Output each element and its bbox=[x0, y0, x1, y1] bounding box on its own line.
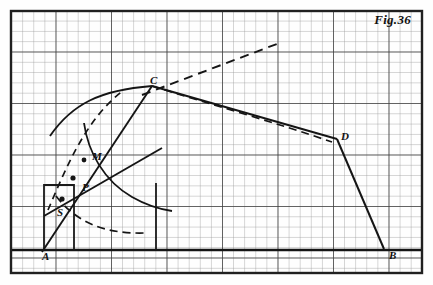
point-label-A: A bbox=[42, 250, 50, 262]
point-marker-P bbox=[70, 175, 75, 180]
diagram-canvas bbox=[0, 0, 433, 285]
graph-paper-grid bbox=[11, 11, 422, 273]
point-label-C: C bbox=[150, 74, 158, 86]
point-marker-S bbox=[59, 196, 64, 201]
figure-36-diagram: Fig.36 A B C D S P M bbox=[0, 0, 433, 285]
figure-caption: Fig.36 bbox=[374, 12, 411, 28]
point-label-S: S bbox=[57, 206, 63, 218]
point-label-B: B bbox=[389, 249, 397, 261]
point-label-P: P bbox=[82, 181, 89, 193]
point-marker-M bbox=[82, 158, 87, 163]
point-label-M: M bbox=[92, 150, 102, 162]
point-label-D: D bbox=[341, 130, 349, 142]
